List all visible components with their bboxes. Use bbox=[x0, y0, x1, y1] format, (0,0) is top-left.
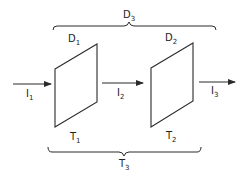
label-d3-sub: 3 bbox=[131, 15, 135, 23]
label-d1-base: D bbox=[68, 33, 76, 44]
label-t2: T2 bbox=[166, 131, 177, 144]
label-i3: I3 bbox=[211, 86, 218, 99]
label-i1-sub: 1 bbox=[29, 94, 33, 102]
label-t2-sub: 2 bbox=[172, 136, 176, 144]
label-d3: D3 bbox=[123, 10, 135, 23]
label-t3-sub: 3 bbox=[125, 164, 129, 172]
label-d2: D2 bbox=[165, 33, 177, 46]
element-1-plate bbox=[55, 44, 97, 127]
label-d1: D1 bbox=[68, 34, 80, 47]
label-i2-sub: 2 bbox=[120, 93, 124, 101]
top-brace bbox=[53, 22, 216, 30]
label-d1-sub: 1 bbox=[76, 39, 80, 47]
element-2-plate bbox=[151, 43, 193, 127]
two-element-system-diagram: D3 D1 D2 I1 I2 I3 T1 T2 T3 bbox=[0, 0, 244, 178]
label-i1: I1 bbox=[26, 89, 33, 102]
label-t1-sub: 1 bbox=[76, 137, 80, 145]
label-d2-base: D bbox=[165, 32, 173, 43]
label-i3-sub: 3 bbox=[214, 91, 218, 99]
bottom-brace bbox=[48, 147, 201, 156]
label-d2-sub: 2 bbox=[173, 38, 177, 46]
label-t1: T1 bbox=[70, 132, 81, 145]
label-t3: T3 bbox=[119, 159, 130, 172]
label-d3-base: D bbox=[123, 9, 131, 20]
label-i2: I2 bbox=[117, 88, 124, 101]
